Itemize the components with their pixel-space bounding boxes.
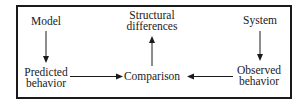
arrow-observed-to-comparison-icon (187, 74, 233, 80)
arrow-predicted-to-comparison-icon (70, 74, 123, 80)
arrow-model-to-predicted-icon (43, 31, 49, 63)
arrow-comparison-to-structural-icon (149, 36, 155, 66)
arrow-system-to-observed-icon (257, 31, 263, 61)
diagram-arrows (0, 0, 303, 104)
